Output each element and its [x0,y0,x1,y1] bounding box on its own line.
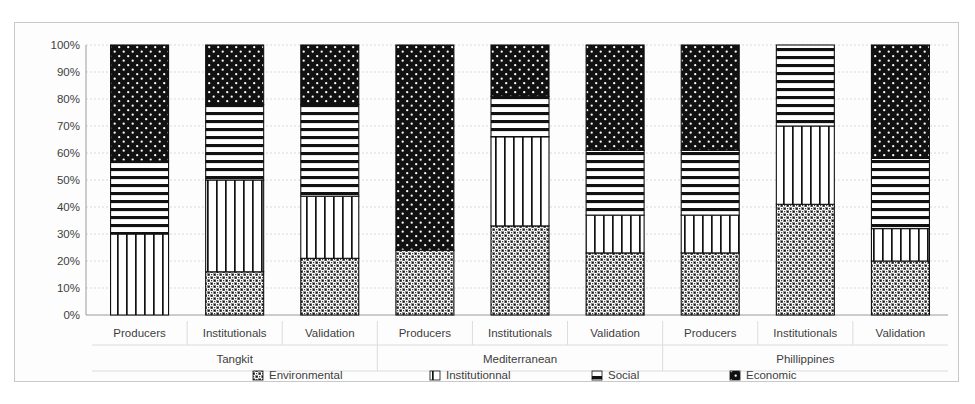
group-label: Mediterranean [483,353,557,365]
bar-segment-social[interactable] [111,161,169,234]
legend-item[interactable]: Social [592,369,639,381]
group-label: Tangkit [216,353,253,365]
legend-swatch-economic [730,371,740,380]
bar-segment-environmental[interactable] [491,226,549,315]
bar-segment-social[interactable] [491,96,549,137]
bar-segment-environmental[interactable] [396,250,454,315]
legend-swatch-institutionnal [430,371,440,380]
y-axis-tick-label: 90% [57,66,80,78]
bar-segment-institutionnal[interactable] [871,229,929,261]
category-label: Producers [399,327,452,339]
category-label: Producers [113,327,166,339]
y-axis-tick-label: 30% [57,228,80,240]
y-axis-tick-label: 100% [51,39,80,51]
bar-segment-economic[interactable] [586,45,644,150]
legend-label: Environmental [269,369,343,381]
y-axis-tick-label: 70% [57,120,80,132]
bar-segment-social[interactable] [776,45,834,126]
legend-swatch-environmental [253,371,263,380]
bar-segment-institutionnal[interactable] [111,234,169,315]
bar-segment-institutionnal[interactable] [776,126,834,204]
legend-swatch-social [592,371,602,380]
category-label: Institutionals [203,327,267,339]
category-label: Institutionals [488,327,552,339]
category-label: Producers [684,327,737,339]
bar-segment-social[interactable] [301,104,359,196]
stacked-bar-chart: 100%90%80%70%60%50%40%30%20%10%0%Produce… [0,0,975,404]
group-label: Phillippines [776,353,834,365]
legend-item[interactable]: Economic [730,369,797,381]
bar-segment-social[interactable] [681,150,739,215]
bar-segment-institutionnal[interactable] [681,215,739,253]
bar-segment-economic[interactable] [396,45,454,250]
y-axis-tick-label: 40% [57,201,80,213]
y-axis-tick-label: 80% [57,93,80,105]
bar-segment-environmental[interactable] [681,253,739,315]
bar-segment-environmental[interactable] [871,261,929,315]
y-axis-tick-label: 0% [63,309,80,321]
legend-label: Social [608,369,639,381]
bar-segment-social[interactable] [871,158,929,228]
bar-segment-institutionnal[interactable] [206,180,264,272]
y-axis-tick-label: 10% [57,282,80,294]
bar-segment-environmental[interactable] [206,272,264,315]
bar-segment-environmental[interactable] [586,253,644,315]
bar-segment-environmental[interactable] [776,204,834,315]
y-axis-tick-label: 50% [57,174,80,186]
category-label: Validation [305,327,355,339]
y-axis-tick-label: 60% [57,147,80,159]
legend-label: Institutionnal [446,369,511,381]
bar-segment-social[interactable] [206,104,264,180]
bar-segment-institutionnal[interactable] [301,196,359,258]
bar-segment-economic[interactable] [206,45,264,104]
bar-segment-economic[interactable] [871,45,929,158]
y-axis-tick-label: 20% [57,255,80,267]
bar-segment-institutionnal[interactable] [586,215,644,253]
plot-area: 100%90%80%70%60%50%40%30%20%10%0%Produce… [51,39,948,381]
bar-segment-economic[interactable] [301,45,359,104]
category-label: Institutionals [773,327,837,339]
bar-segment-economic[interactable] [491,45,549,96]
legend-label: Economic [746,369,797,381]
bar-segment-social[interactable] [586,150,644,215]
bar-segment-environmental[interactable] [301,258,359,315]
category-label: Validation [590,327,640,339]
bar-segment-economic[interactable] [111,45,169,161]
bar-segment-economic[interactable] [681,45,739,150]
bar-segment-institutionnal[interactable] [491,137,549,226]
category-label: Validation [876,327,926,339]
